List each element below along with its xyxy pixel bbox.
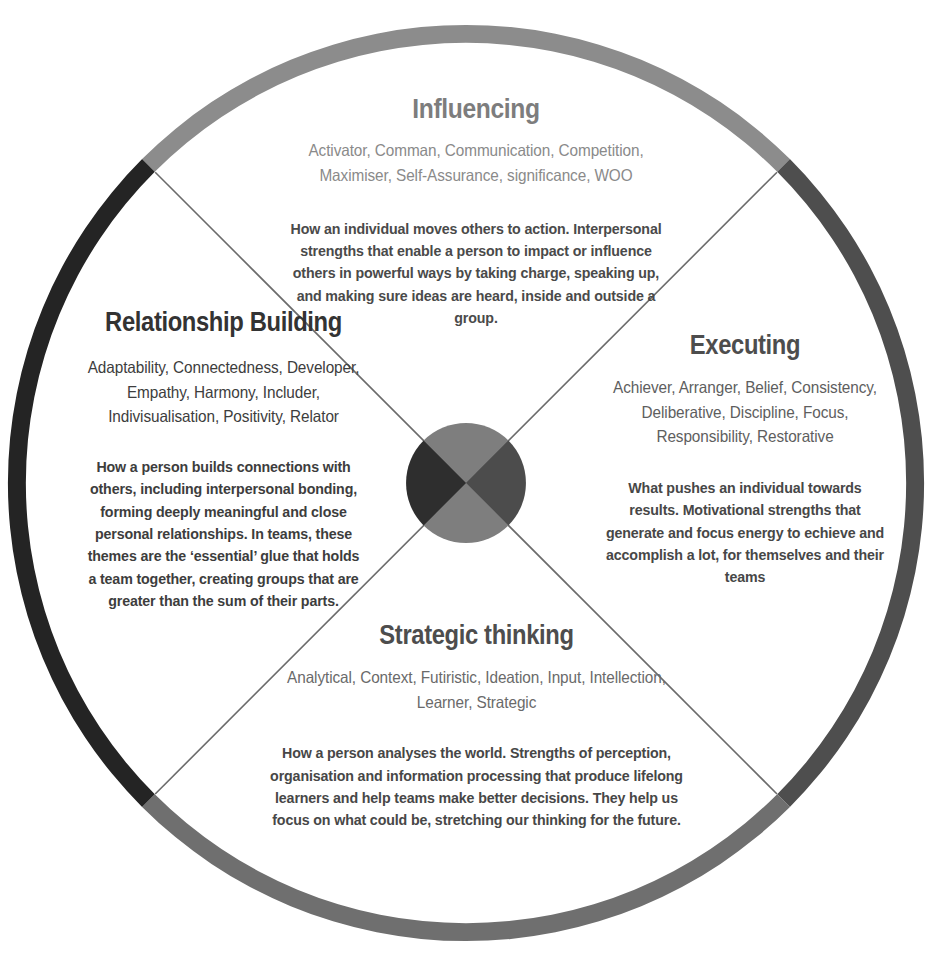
- quadrant-relationship-building-title: Relationship Building: [90, 307, 357, 339]
- quadrant-relationship-building-description: How a person builds connections with oth…: [83, 456, 365, 612]
- strengths-wheel-figure: Influencing Activator, Comman, Communica…: [0, 0, 951, 961]
- quadrant-executing: Executing Achiever, Arranger, Belief, Co…: [595, 330, 895, 589]
- quadrant-strategic-thinking-themes: Analytical, Context, Futiristic, Ideatio…: [265, 665, 688, 715]
- quadrant-influencing-themes: Activator, Comman, Communication, Compet…: [282, 138, 671, 188]
- quadrant-influencing: Influencing Activator, Comman, Communica…: [267, 92, 685, 329]
- quadrant-executing-title: Executing: [613, 330, 877, 362]
- quadrant-relationship-building: Relationship Building Adaptability, Conn…: [72, 307, 375, 612]
- quadrant-relationship-building-themes: Adaptability, Connectedness, Developer, …: [83, 355, 365, 429]
- quadrant-strategic-thinking-description: How a person analyses the world. Strengt…: [265, 742, 688, 831]
- quadrant-executing-description: What pushes an individual towards result…: [606, 477, 885, 589]
- quadrant-executing-themes: Achiever, Arranger, Belief, Consistency,…: [606, 375, 885, 449]
- center-hub: [406, 423, 526, 543]
- quadrant-strategic-thinking: Strategic thinking Analytical, Context, …: [249, 620, 704, 832]
- quadrant-influencing-title: Influencing: [292, 92, 660, 125]
- quadrant-strategic-thinking-title: Strategic thinking: [276, 620, 676, 652]
